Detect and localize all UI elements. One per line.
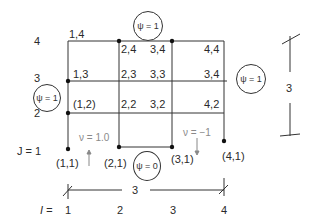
node-3-1: (3,1) <box>171 153 194 165</box>
node-1-1: (1,1) <box>56 157 79 169</box>
bc-bottom-label: ψ = 0 <box>136 161 158 171</box>
outlet-velocity-label: ν = −1 <box>183 127 211 139</box>
node-3-3: 3,3 <box>150 68 165 80</box>
bc-left-label: ψ = 1 <box>36 93 58 103</box>
node-3-4: 3,4 <box>150 43 165 55</box>
width-dimension-label: 3 <box>132 184 138 196</box>
bc-left-circle: ψ = 1 <box>33 84 61 112</box>
j-label-1: J = 1 <box>17 145 41 157</box>
i-label-prefix: I = <box>40 204 53 216</box>
bc-top-label: ψ = 1 <box>137 21 159 31</box>
node-1-3: 1,3 <box>73 68 88 80</box>
i-label-2: 2 <box>117 204 123 216</box>
i-label-4: 4 <box>221 204 227 216</box>
node-4-4: 4,4 <box>204 43 219 55</box>
j-label-3: 3 <box>34 72 40 84</box>
bc-top-circle: ψ = 1 <box>133 11 163 41</box>
bc-bottom-circle: ψ = 0 <box>133 151 161 181</box>
node-2-4: 2,4 <box>121 43 136 55</box>
node-1-4: 1,4 <box>69 28 84 40</box>
node-1-2: (1,2) <box>73 98 96 110</box>
node-3-2: 3,2 <box>150 98 165 110</box>
node-2-1: (2,1) <box>104 157 127 169</box>
i-label-3: 3 <box>170 204 176 216</box>
node-3-4-right: 3,4 <box>204 68 219 80</box>
i-label-1: 1 <box>65 204 71 216</box>
node-2-2: 2,2 <box>121 98 136 110</box>
bc-right-circle: ψ = 1 <box>236 64 266 94</box>
node-4-1: (4,1) <box>222 150 245 162</box>
bc-right-label: ψ = 1 <box>240 74 262 84</box>
inlet-velocity-label: ν = 1.0 <box>79 132 109 144</box>
j-label-4: 4 <box>34 35 40 47</box>
node-4-2: 4,2 <box>204 98 219 110</box>
height-dimension-label: 3 <box>286 82 292 94</box>
node-2-3: 2,3 <box>121 68 136 80</box>
